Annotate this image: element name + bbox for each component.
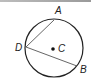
circle-diagram: A D C B (0, 0, 91, 82)
label-d: D (15, 42, 22, 53)
center-point (51, 47, 55, 51)
label-c: C (58, 43, 66, 54)
chord-da (26, 20, 54, 47)
label-b: B (80, 64, 87, 75)
label-a: A (54, 5, 62, 16)
